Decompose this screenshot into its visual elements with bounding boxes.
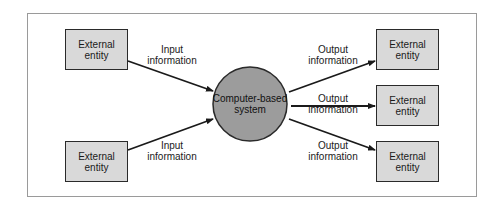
flow-label-line1: Input xyxy=(132,140,212,151)
flow-label-line1: Output xyxy=(293,93,373,104)
entity-label-line2: entity xyxy=(389,162,426,173)
system-label-line1: Computer-based xyxy=(210,93,290,104)
entity-label-line2: entity xyxy=(78,50,115,61)
flow-label-line2: information xyxy=(132,55,212,66)
input-flow-label-bottom: Input information xyxy=(132,140,212,162)
external-entity-input-bottom: External entity xyxy=(65,141,128,182)
entity-label-line2: entity xyxy=(78,162,115,173)
entity-label-line2: entity xyxy=(389,50,426,61)
flow-label-line1: Output xyxy=(293,140,373,151)
input-flow-label-top: Input information xyxy=(132,44,212,66)
entity-label-line1: External xyxy=(389,95,426,106)
output-flow-label-middle: Output information xyxy=(293,93,373,115)
external-entity-output-bottom: External entity xyxy=(376,141,439,182)
entity-label-line1: External xyxy=(389,39,426,50)
entity-label-line1: External xyxy=(78,151,115,162)
external-entity-output-top: External entity xyxy=(376,29,439,70)
system-label-line2: system xyxy=(210,104,290,115)
flow-label-line1: Output xyxy=(293,44,373,55)
flow-label-line2: information xyxy=(293,104,373,115)
entity-label-line1: External xyxy=(78,39,115,50)
system-label: Computer-based system xyxy=(210,93,290,115)
output-flow-label-bottom: Output information xyxy=(293,140,373,162)
entity-label-line2: entity xyxy=(389,106,426,117)
flow-label-line2: information xyxy=(293,55,373,66)
flow-label-line1: Input xyxy=(132,44,212,55)
external-entity-output-middle: External entity xyxy=(376,85,439,126)
entity-label-line1: External xyxy=(389,151,426,162)
flow-label-line2: information xyxy=(132,151,212,162)
external-entity-input-top: External entity xyxy=(65,29,128,70)
flow-label-line2: information xyxy=(293,151,373,162)
output-flow-label-top: Output information xyxy=(293,44,373,66)
